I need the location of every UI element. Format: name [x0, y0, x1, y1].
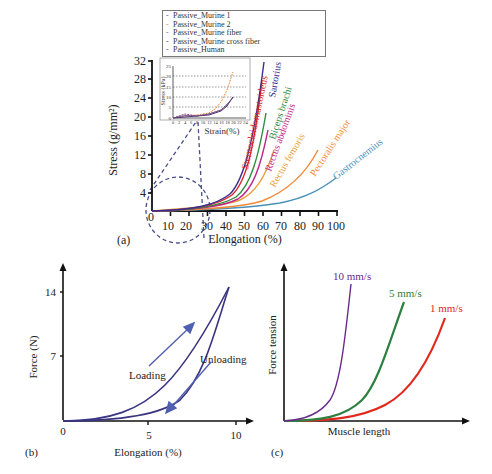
y-tick-20: 20	[134, 110, 146, 124]
y-tick-12: 12	[134, 148, 146, 162]
x-tick-30: 30	[201, 219, 213, 233]
axes-b	[63, 268, 249, 421]
x-tick-40: 40	[220, 219, 232, 233]
y-tick-4: 4	[140, 186, 146, 200]
x-tick-100: 100	[327, 219, 345, 233]
x-tick-20: 20	[180, 219, 192, 233]
svg-text:24: 24	[243, 120, 248, 125]
x-axis-label-a: Elongation (%)	[208, 232, 282, 246]
panel-b: 14 7 0 5 10 Force (N) Elongation (%) (b)…	[25, 263, 249, 459]
svg-text:10: 10	[166, 95, 172, 100]
x-axis-arrow-b	[246, 418, 254, 425]
x-tick-90: 90	[312, 219, 324, 233]
y-tick-7: 7	[51, 350, 57, 362]
inset-y-label: Stress (kPa)	[160, 77, 167, 106]
y-tick-16: 16	[134, 129, 146, 143]
svg-text:15: 15	[166, 85, 172, 90]
label-10mms: 10 mm/s	[333, 270, 371, 282]
svg-text:12: 12	[207, 120, 212, 125]
svg-text:20: 20	[166, 74, 172, 79]
panel-c: Force tension Muscle length (c) 10 mm/s …	[246, 263, 470, 459]
y-axis-label-b: Force (N)	[27, 335, 40, 378]
y-axis-arrow-c	[281, 263, 288, 271]
svg-text:18: 18	[225, 120, 230, 125]
x-tick-60: 60	[257, 219, 269, 233]
legend-item-human: -Passive_Human	[166, 46, 322, 55]
unloading-arrow	[171, 362, 211, 408]
panel-a: 4 8 12 16 20 24 28 32 Stress (g/mm²) 0 1…	[106, 54, 385, 247]
x-tick-0: 0	[148, 210, 154, 224]
x-axis-label-c: Muscle length	[328, 425, 391, 437]
figure: 4 8 12 16 20 24 28 32 Stress (g/mm²) 0 1…	[0, 0, 492, 474]
axes-c	[284, 268, 465, 421]
x-tick-10: 10	[162, 219, 174, 233]
svg-text:4: 4	[184, 120, 187, 125]
y-tick-8: 8	[140, 167, 146, 181]
zoom-line-left	[150, 122, 196, 190]
curves-c	[284, 284, 445, 421]
curve-1mms	[284, 318, 445, 421]
y-axis-arrow-b	[60, 263, 67, 271]
y-tick-labels-a: 4 8 12 16 20 24 28 32	[134, 54, 146, 200]
svg-text:6: 6	[190, 120, 193, 125]
curve-5mms	[284, 302, 404, 421]
y-axis-label-c: Force tension	[266, 315, 278, 375]
loading-label: Loading	[129, 369, 166, 381]
y-tick-24: 24	[134, 91, 146, 105]
panel-label-c: (c)	[271, 446, 284, 459]
panel-label-a: (a)	[117, 233, 130, 247]
x-axis-arrow-c	[462, 418, 470, 425]
x-tick-5-b: 5	[146, 429, 152, 441]
svg-text:10: 10	[201, 120, 206, 125]
x-tick-80: 80	[294, 219, 306, 233]
inset-plot: 0 5 10 15 20 25 0 2 4 6 8 10 12 14 16 18…	[160, 58, 250, 136]
svg-text:0: 0	[172, 120, 175, 125]
label-1mms: 1 mm/s	[430, 302, 463, 314]
legend-marker-icon: -	[166, 46, 171, 55]
svg-text:25: 25	[166, 64, 172, 69]
x-tick-labels-a: 0 10 20 30 40 50 60 70 80 90 100	[148, 210, 345, 233]
unloading-label: Unloading	[200, 353, 247, 365]
y-tick-32: 32	[134, 54, 146, 68]
x-tick-0-b: 0	[60, 425, 66, 437]
legend-label: Passive_Human	[173, 45, 225, 54]
svg-text:20: 20	[231, 120, 236, 125]
svg-text:14: 14	[213, 120, 218, 125]
x-tick-10-b: 10	[231, 429, 243, 441]
x-axis-label-b: Elongation (%)	[114, 446, 182, 459]
y-tick-28: 28	[134, 72, 146, 86]
svg-text:2: 2	[178, 120, 180, 125]
curve-10mms	[284, 284, 351, 421]
x-tick-70: 70	[275, 219, 287, 233]
inset-x-label: Strain(%)	[205, 126, 240, 136]
label-5mms: 5 mm/s	[389, 287, 422, 299]
x-tick-50: 50	[238, 219, 250, 233]
svg-text:16: 16	[219, 120, 224, 125]
panel-label-b: (b)	[25, 446, 38, 459]
y-axis-label-a: Stress (g/mm²)	[106, 104, 120, 175]
inset-x-ticks: 0 2 4 6 8 10 12 14 16 18 20 22 24	[172, 120, 249, 125]
inset-legend: -Passive_Murine 1 -Passive_Murine 2 -Pas…	[162, 10, 326, 57]
svg-text:22: 22	[237, 120, 242, 125]
curve-labels-a: Sartorius Sternocleidomastoideus Biceps …	[239, 61, 384, 189]
y-tick-14: 14	[45, 286, 57, 298]
loading-arrow	[149, 327, 190, 366]
